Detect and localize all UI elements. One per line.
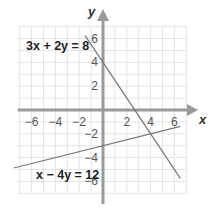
x-tick-label: −6: [25, 115, 39, 129]
coordinate-plane: −6−4−2246−6−4−2246 y x 3x + 2y = 8 x − 4…: [0, 0, 214, 211]
y-axis-arrow-icon: [97, 9, 109, 21]
y-tick-label: −4: [84, 151, 98, 165]
equation-label-1: 3x + 2y = 8: [26, 39, 89, 53]
x-tick-label: 4: [147, 115, 154, 129]
plot-line-1: [85, 36, 180, 179]
y-tick-label: 6: [91, 32, 98, 46]
x-axis-arrow-icon: [187, 104, 198, 116]
y-axis-label: y: [87, 4, 96, 19]
x-tick-label: −4: [49, 115, 63, 129]
x-tick-label: 2: [123, 115, 130, 129]
equation-label-2: x − 4y = 12: [36, 168, 99, 182]
y-tick-label: 2: [91, 79, 98, 93]
y-tick-label: 4: [91, 55, 98, 69]
x-axis-label: x: [198, 112, 207, 127]
y-tick-label: −2: [84, 127, 98, 141]
